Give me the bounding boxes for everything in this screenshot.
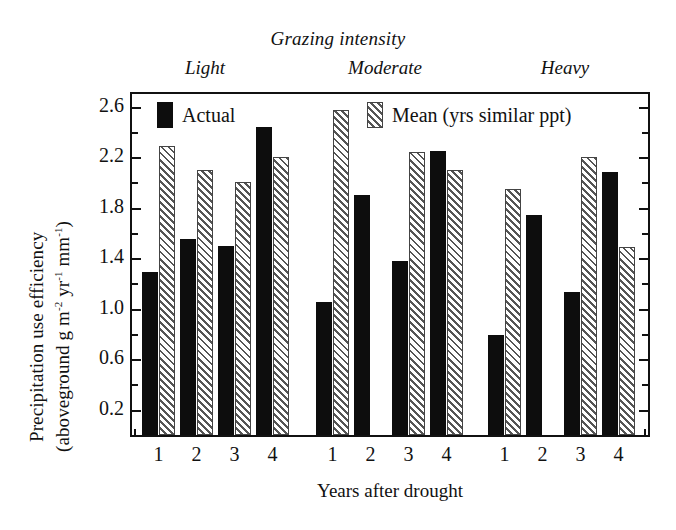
bar-actual xyxy=(142,272,158,435)
bar-actual xyxy=(602,172,618,435)
bar-mean xyxy=(505,189,521,435)
y-tick-label: 1.8 xyxy=(82,195,124,218)
y-tick-major-right xyxy=(639,309,648,311)
y-tick-major xyxy=(132,208,141,210)
x-tick-label: 1 xyxy=(321,443,345,466)
y-tick-major xyxy=(132,359,141,361)
chart-title: Grazing intensity xyxy=(0,28,676,50)
y-tick-label: 1.0 xyxy=(82,296,124,319)
y-tick-major-right xyxy=(639,107,648,109)
x-tick-label: 4 xyxy=(435,443,459,466)
group-header-heavy: Heavy xyxy=(510,57,620,79)
legend-label-mean: Mean (yrs similar ppt) xyxy=(392,104,571,127)
y-axis-unit-suffix: ) xyxy=(52,221,73,227)
bar-mean xyxy=(447,170,463,435)
y-tick-minor-right xyxy=(642,283,648,285)
bar-actual xyxy=(564,292,580,435)
x-tick-label: 2 xyxy=(359,443,383,466)
y-tick-minor xyxy=(132,384,138,386)
x-tick-label: 3 xyxy=(569,443,593,466)
x-tick xyxy=(134,429,136,435)
legend-item-mean: Mean (yrs similar ppt) xyxy=(367,102,571,128)
plot-area: Actual Mean (yrs similar ppt) xyxy=(130,92,650,437)
y-axis-unit-mid-2: mm xyxy=(52,237,73,272)
y-tick-major xyxy=(132,157,141,159)
bar-mean xyxy=(333,110,349,435)
y-tick-minor xyxy=(132,182,138,184)
y-tick-label: 1.4 xyxy=(82,245,124,268)
y-tick-minor-right xyxy=(642,233,648,235)
bar-actual xyxy=(180,239,196,435)
legend-swatch-mean-icon xyxy=(367,102,383,128)
x-tick-label: 3 xyxy=(223,443,247,466)
y-tick-minor xyxy=(132,132,138,134)
bar-actual xyxy=(392,261,408,435)
y-axis-unit-prefix: (aboveground g m xyxy=(52,311,73,452)
bar-mean xyxy=(409,152,425,435)
x-tick-label: 2 xyxy=(185,443,209,466)
legend-swatch-actual-icon xyxy=(157,102,173,128)
y-tick-label: 2.2 xyxy=(82,144,124,167)
y-axis-unit-sup-1: -2 xyxy=(52,302,64,311)
x-tick-label: 4 xyxy=(607,443,631,466)
plot-inner xyxy=(132,94,648,435)
bar-mean xyxy=(235,182,251,435)
chart-page: Grazing intensity Light Moderate Heavy P… xyxy=(0,0,676,530)
y-tick-major xyxy=(132,258,141,260)
bar-actual xyxy=(316,302,332,435)
bar-actual xyxy=(488,335,504,435)
y-tick-major-right xyxy=(639,410,648,412)
x-axis-title: Years after drought xyxy=(130,480,650,502)
legend-item-actual: Actual xyxy=(157,102,235,128)
y-tick-major-right xyxy=(639,157,648,159)
y-tick-major-right xyxy=(639,208,648,210)
y-tick-minor xyxy=(132,233,138,235)
y-tick-minor-right xyxy=(642,384,648,386)
bar-mean xyxy=(197,170,213,435)
y-tick-minor xyxy=(132,283,138,285)
bar-actual xyxy=(526,215,542,435)
x-tick-label: 1 xyxy=(493,443,517,466)
legend-label-actual: Actual xyxy=(182,104,235,127)
x-tick-label: 3 xyxy=(397,443,421,466)
y-tick-major xyxy=(132,410,141,412)
y-tick-minor-right xyxy=(642,132,648,134)
y-tick-label: 2.6 xyxy=(82,94,124,117)
y-tick-major xyxy=(132,309,141,311)
bar-actual xyxy=(256,127,272,435)
x-tick xyxy=(644,429,646,435)
y-tick-label: 0.2 xyxy=(82,397,124,420)
bar-actual xyxy=(354,195,370,435)
group-header-moderate: Moderate xyxy=(320,57,450,79)
x-tick-label: 1 xyxy=(147,443,171,466)
y-axis-unit-mid-1: yr xyxy=(52,281,73,302)
y-axis-unit-sup-3: -1 xyxy=(52,227,64,236)
y-tick-major xyxy=(132,107,141,109)
bar-mean xyxy=(619,247,635,435)
y-tick-major-right xyxy=(639,359,648,361)
bar-actual xyxy=(218,246,234,435)
y-tick-minor-right xyxy=(642,334,648,336)
bar-mean xyxy=(581,157,597,435)
y-axis-title-line2: (aboveground g m-2 yr-1 mm-1) xyxy=(52,221,74,452)
y-tick-minor-right xyxy=(642,182,648,184)
x-tick-label: 2 xyxy=(531,443,555,466)
y-tick-major-right xyxy=(639,258,648,260)
bar-mean xyxy=(159,146,175,435)
y-tick-minor xyxy=(132,334,138,336)
group-header-light: Light xyxy=(150,57,260,79)
y-axis-unit-sup-2: -1 xyxy=(52,271,64,280)
y-tick-label: 0.6 xyxy=(82,346,124,369)
y-axis-title-line1: Precipitation use efficiency xyxy=(26,232,48,442)
x-tick-label: 4 xyxy=(261,443,285,466)
bar-mean xyxy=(273,157,289,435)
bar-actual xyxy=(430,151,446,435)
